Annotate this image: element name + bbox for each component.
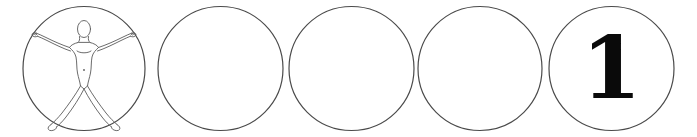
figure-arm-left-lower xyxy=(38,36,71,51)
figure-leg-right-inner xyxy=(84,89,112,127)
circle-item-3[interactable] xyxy=(288,0,415,137)
vitruvian-figure xyxy=(32,21,136,131)
circle-outline xyxy=(23,7,145,131)
circle-outline xyxy=(549,7,674,131)
figure-arm-right-lower xyxy=(98,36,131,51)
figure-torso xyxy=(70,43,99,90)
figure-head xyxy=(78,21,91,38)
figure-arm-right xyxy=(99,33,132,47)
circle-5-graphic xyxy=(548,0,675,137)
figure-chest-line xyxy=(77,51,91,53)
circle-3-graphic xyxy=(288,0,415,137)
circle-item-2[interactable] xyxy=(157,0,284,137)
circle-1-graphic xyxy=(22,0,146,137)
figure-leg-left-inner xyxy=(57,89,85,127)
circle-item-1[interactable] xyxy=(22,0,146,137)
figure-arm-left xyxy=(37,33,70,47)
circle-outline xyxy=(289,7,414,131)
circle-2-graphic xyxy=(157,0,284,137)
circle-item-5[interactable]: 1 xyxy=(548,0,675,137)
circle-item-4[interactable] xyxy=(417,0,543,137)
figure-foot-left xyxy=(48,125,56,131)
figure-foot-right xyxy=(112,125,120,131)
circle-sequence-strip: 1 xyxy=(0,0,697,137)
figure-navel xyxy=(83,69,85,71)
circle-4-graphic xyxy=(417,0,543,137)
figure-leg-right xyxy=(88,86,118,125)
circle-outline xyxy=(418,7,542,131)
circle-outline xyxy=(158,7,283,131)
figure-leg-left xyxy=(51,86,81,125)
